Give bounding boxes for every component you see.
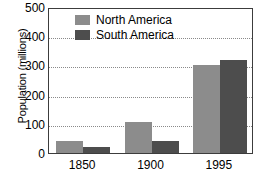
- legend-swatch-icon-2: [75, 30, 90, 40]
- legend-swatch-icon-1: [75, 15, 90, 25]
- x-axis-tick-labels: 185019001995: [48, 158, 253, 178]
- bar-1850-north-america[interactable]: [56, 141, 83, 153]
- bar-1995-north-america[interactable]: [193, 65, 220, 153]
- legend-item-2[interactable]: South America: [75, 27, 174, 42]
- bar-group-1995: [193, 9, 247, 153]
- bar-1995-south-america[interactable]: [220, 60, 247, 153]
- y-tick-label-300: 300: [25, 60, 45, 72]
- x-tick-label-1900: 1900: [137, 158, 164, 172]
- legend-label-1: North America: [96, 14, 172, 26]
- legend-label-2: South America: [96, 29, 174, 41]
- bar-1900-south-america[interactable]: [152, 141, 179, 153]
- y-axis-tick-labels: 0100200300400500: [14, 8, 45, 154]
- y-tick-label-500: 500: [25, 2, 45, 14]
- plot-area: North AmericaSouth America: [48, 8, 253, 154]
- y-tick-label-100: 100: [25, 119, 45, 131]
- bar-1850-south-america[interactable]: [83, 147, 110, 153]
- bar-1900-north-america[interactable]: [125, 122, 152, 153]
- bar-chart-figure: Population (millions) 0100200300400500 N…: [0, 0, 260, 192]
- y-tick-label-200: 200: [25, 90, 45, 102]
- y-tick-label-0: 0: [38, 148, 45, 160]
- x-tick-label-1850: 1850: [69, 158, 96, 172]
- legend-item-1[interactable]: North America: [75, 12, 174, 27]
- chart-legend: North AmericaSouth America: [75, 12, 174, 42]
- y-tick-label-400: 400: [25, 31, 45, 43]
- x-tick-label-1995: 1995: [205, 158, 232, 172]
